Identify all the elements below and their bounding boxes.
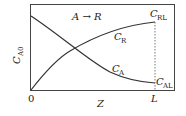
- l-tick: L: [150, 93, 158, 104]
- x-axis-label: Z: [96, 98, 105, 109]
- cr-curve: [31, 22, 155, 90]
- ca-label: C A: [112, 63, 125, 77]
- svg-text:AL: AL: [162, 82, 173, 90]
- y-axis-label: C A0: [11, 46, 25, 64]
- cr-label: C R: [114, 31, 127, 45]
- origin-tick: 0: [28, 93, 34, 104]
- svg-text:A: A: [118, 69, 125, 77]
- svg-text:RL: RL: [157, 14, 167, 22]
- reactor-concentration-diagram: A → R C A0 C R C A C RL C AL 0 L Z: [0, 0, 186, 116]
- ca-curve: [31, 16, 155, 83]
- crl-label: C RL: [150, 8, 167, 22]
- svg-text:C: C: [11, 56, 22, 64]
- svg-text:A0: A0: [17, 46, 25, 57]
- cal-label: C AL: [156, 76, 173, 90]
- reaction-label: A → R: [71, 11, 102, 22]
- svg-text:R: R: [121, 37, 127, 45]
